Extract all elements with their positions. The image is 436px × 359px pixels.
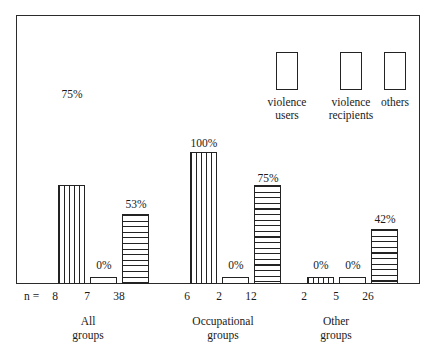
bar-all-groups-violence-recipients xyxy=(90,277,117,284)
bar-slot xyxy=(307,277,334,284)
bar-value-label: 75% xyxy=(52,88,92,100)
group-label-occupational-groups-line1: Occupational xyxy=(175,315,271,329)
bar-slot xyxy=(222,277,249,284)
bar-slot xyxy=(122,214,149,284)
bars-layer: 75% 0% 53% 100% 0% 75% xyxy=(17,16,421,284)
group-label-all-groups-line2: groups xyxy=(48,329,128,343)
bar-value-label: 0% xyxy=(218,259,254,271)
bar-occupational-groups-others xyxy=(254,185,281,284)
bar-other-groups-others xyxy=(371,229,398,284)
bar-other-groups-violence-recipients xyxy=(339,277,366,284)
bar-value-label: 0% xyxy=(86,259,122,271)
n-value-all-groups-violence-recipients: 7 xyxy=(69,290,105,303)
bar-slot xyxy=(254,185,281,284)
group-label-occupational-groups-line2: groups xyxy=(175,329,271,343)
bar-slot xyxy=(190,152,217,284)
plot-frame: violence users violence recipients other… xyxy=(16,15,420,284)
group-label-occupational-groups: Occupational groups xyxy=(175,315,271,342)
bar-value-label: 0% xyxy=(335,259,371,271)
bar-slot xyxy=(58,185,85,284)
bar-slot xyxy=(339,277,366,284)
n-value-all-groups-others: 38 xyxy=(101,290,137,303)
bar-value-label: 42% xyxy=(365,213,405,225)
n-value-all-groups-violence-users: 8 xyxy=(37,290,73,303)
n-value-occupational-groups-violence-users: 6 xyxy=(169,290,205,303)
chart-canvas: violence users violence recipients other… xyxy=(0,0,436,359)
n-value-other-groups-others: 26 xyxy=(350,290,386,303)
bar-occupational-groups-violence-recipients xyxy=(222,277,249,284)
bar-all-groups-others xyxy=(122,214,149,284)
bar-value-label: 0% xyxy=(303,259,339,271)
group-label-all-groups: All groups xyxy=(48,315,128,342)
group-label-other-groups: Other groups xyxy=(296,315,376,342)
group-label-other-groups-line2: groups xyxy=(296,329,376,343)
n-value-occupational-groups-others: 12 xyxy=(233,290,269,303)
n-value-other-groups-violence-users: 2 xyxy=(286,290,322,303)
bar-value-label: 100% xyxy=(181,137,227,149)
n-value-other-groups-violence-recipients: 5 xyxy=(318,290,354,303)
n-value-occupational-groups-violence-recipients: 2 xyxy=(201,290,237,303)
bar-occupational-groups-violence-users xyxy=(190,152,217,284)
bar-all-groups-violence-users xyxy=(58,185,85,284)
bar-value-label: 53% xyxy=(116,198,156,210)
bar-other-groups-violence-users xyxy=(307,277,334,284)
group-label-other-groups-line1: Other xyxy=(296,315,376,329)
group-label-all-groups-line1: All xyxy=(48,315,128,329)
bar-slot xyxy=(371,229,398,284)
bar-slot xyxy=(90,277,117,284)
bar-value-label: 75% xyxy=(248,172,288,184)
